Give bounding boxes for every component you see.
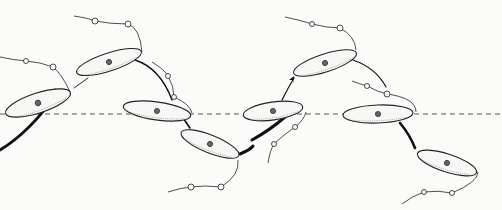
cell-8 xyxy=(415,145,480,181)
cell-7 xyxy=(343,104,414,124)
nucleus-icon xyxy=(270,108,276,114)
nucleus-icon xyxy=(375,111,380,116)
illustration-canvas xyxy=(0,0,502,210)
cell-6 xyxy=(291,44,359,82)
flagellate-motion-illustration xyxy=(0,0,502,210)
cell-3 xyxy=(122,97,192,124)
cell-5 xyxy=(242,98,304,124)
cell-4 xyxy=(178,124,242,164)
nucleus-icon xyxy=(154,108,160,114)
cell-2 xyxy=(74,43,144,81)
